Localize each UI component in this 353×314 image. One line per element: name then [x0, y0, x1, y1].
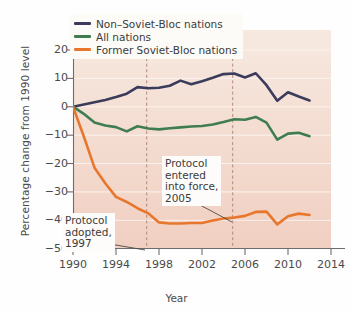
chart-figure: Percentage change from 1990 level 20 10 …	[0, 0, 353, 314]
x-tick-label: 1998	[136, 258, 182, 271]
x-tick-label: 1994	[93, 258, 139, 271]
y-tick-label: 20	[34, 43, 68, 56]
x-tick-labels: 1990 1994 1998 2002 2006 2010 2014	[0, 258, 353, 280]
y-tick-label: −20	[34, 157, 68, 170]
legend-label: Former Soviet-Bloc nations	[96, 44, 237, 56]
y-tick-label: 0	[34, 100, 68, 113]
legend-swatch-former-soviet-bloc	[74, 48, 91, 52]
legend-label: All nations	[96, 31, 151, 43]
y-tick-label: −30	[34, 185, 68, 198]
x-tick-label: 2010	[265, 258, 311, 271]
y-tick-label: −10	[34, 128, 68, 141]
y-tick-label: 10	[34, 71, 68, 84]
chart-legend: Non–Soviet-Bloc nations All nations Form…	[70, 14, 243, 59]
annotation-protocol-adopted: Protocol adopted, 1997	[62, 213, 115, 252]
annotation-protocol-entered-into-force: Protocol entered into force, 2005	[162, 156, 221, 206]
x-tick-label: 1990	[50, 258, 96, 271]
legend-label: Non–Soviet-Bloc nations	[96, 18, 223, 30]
x-tick-label: 2014	[308, 258, 353, 271]
legend-swatch-non-soviet-bloc	[74, 22, 91, 26]
x-tick-label: 2006	[222, 258, 268, 271]
x-axis-title: Year	[0, 292, 353, 304]
legend-item-non-soviet-bloc: Non–Soviet-Bloc nations	[74, 17, 237, 30]
legend-swatch-all-nations	[74, 35, 91, 39]
legend-item-all-nations: All nations	[74, 30, 237, 43]
x-tick-label: 2002	[179, 258, 225, 271]
legend-item-former-soviet-bloc: Former Soviet-Bloc nations	[74, 43, 237, 56]
